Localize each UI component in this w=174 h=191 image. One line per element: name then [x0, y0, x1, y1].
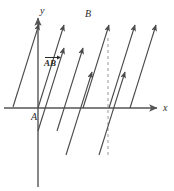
vector-diagram: y x A B AB — [0, 0, 174, 191]
vector-overarrow-icon — [44, 55, 56, 60]
vector-arrow — [99, 72, 125, 155]
point-label-b: B — [85, 9, 91, 19]
y-axis-label: y — [40, 6, 44, 16]
vector-arrow — [109, 25, 135, 108]
point-label-a: A — [31, 112, 37, 122]
vector-arrow — [130, 25, 156, 108]
vector-arrow — [13, 24, 39, 107]
vector-ab-label: AB — [44, 55, 56, 68]
vector-arrow — [66, 72, 92, 155]
x-axis-label: x — [163, 103, 167, 113]
diagram-canvas — [0, 0, 174, 191]
vector-arrow — [83, 25, 109, 108]
vector-arrows — [13, 24, 156, 155]
vector-arrow — [57, 48, 83, 131]
